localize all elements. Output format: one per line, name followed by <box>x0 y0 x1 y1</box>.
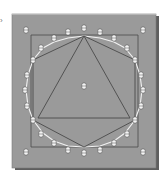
peg <box>52 35 56 41</box>
peg <box>141 149 145 155</box>
peg <box>125 131 129 137</box>
peg <box>66 147 70 153</box>
peg <box>39 131 43 137</box>
peg <box>139 103 143 109</box>
peg <box>98 147 102 153</box>
peg <box>82 150 86 156</box>
peg <box>39 45 43 51</box>
peg <box>133 57 137 63</box>
peg <box>112 140 116 146</box>
peg <box>112 35 116 41</box>
peg <box>141 87 145 93</box>
peg <box>82 83 86 89</box>
geoboard-diagram <box>0 0 166 182</box>
peg <box>125 45 129 51</box>
peg <box>66 29 70 35</box>
peg <box>98 29 102 35</box>
peg <box>52 140 56 146</box>
peg <box>139 72 143 78</box>
peg <box>31 117 35 123</box>
peg <box>24 27 28 33</box>
board-surface <box>12 14 156 168</box>
peg <box>25 72 29 78</box>
peg <box>133 117 137 123</box>
peg <box>23 87 27 93</box>
peg <box>25 103 29 109</box>
peg <box>31 57 35 63</box>
peg <box>24 149 28 155</box>
peg <box>141 27 145 33</box>
peg <box>82 25 86 31</box>
